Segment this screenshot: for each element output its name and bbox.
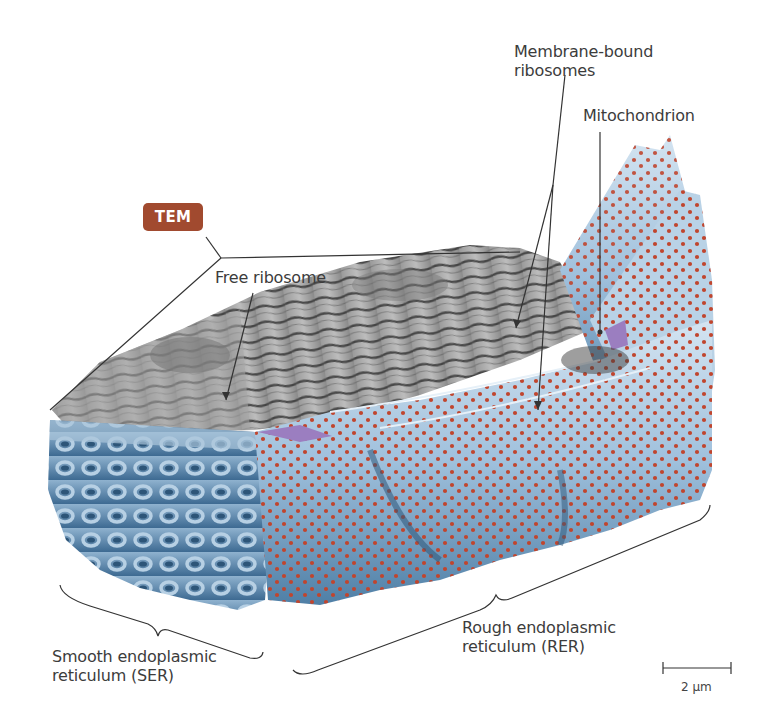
smooth-er-structure xyxy=(48,420,268,610)
scale-bar-label: 2 µm xyxy=(681,680,712,694)
label-line: Free ribosome xyxy=(215,268,326,287)
label-line: reticulum (RER) xyxy=(462,637,616,656)
label-free-ribosome: Free ribosome xyxy=(215,268,326,287)
label-line: Smooth endoplasmic xyxy=(52,647,217,666)
label-line: Mitochondrion xyxy=(583,106,695,125)
tem-badge: TEM xyxy=(143,203,203,231)
label-line: Rough endoplasmic xyxy=(462,618,616,637)
label-mitochondrion: Mitochondrion xyxy=(583,106,695,125)
label-line: Membrane-bound xyxy=(514,42,653,61)
label-line: reticulum (SER) xyxy=(52,666,217,685)
label-line: ribosomes xyxy=(514,61,653,80)
label-rough-er: Rough endoplasmic reticulum (RER) xyxy=(462,618,616,656)
label-smooth-er: Smooth endoplasmic reticulum (SER) xyxy=(52,647,217,685)
label-membrane-bound-ribosomes: Membrane-bound ribosomes xyxy=(514,42,653,80)
